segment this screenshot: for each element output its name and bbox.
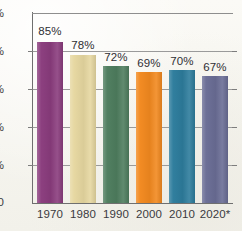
bar-value-2020: 67% <box>195 61 235 73</box>
tick-80 <box>28 51 33 52</box>
bar-chart: 100% 80% 60% 40% 20% 0 85% <box>0 0 242 231</box>
y-axis-label-80: 80% <box>0 45 4 57</box>
tick-60-right <box>232 89 237 90</box>
bar-1970 <box>37 42 63 204</box>
bar-2010 <box>169 70 195 203</box>
tick-40-right <box>232 127 237 128</box>
bar-2000 <box>136 72 162 203</box>
tick-20 <box>28 165 33 166</box>
y-axis-label-60: 60% <box>0 83 4 95</box>
y-axis-label-100: 100% <box>0 7 4 19</box>
bar-value-1980: 78% <box>63 39 103 51</box>
bar-value-1970: 85% <box>30 25 70 37</box>
bar-2020 <box>202 76 228 203</box>
tick-80-right <box>232 51 237 52</box>
y-axis-label-20: 20% <box>0 159 4 171</box>
y-axis-label-0: 0 <box>0 196 4 208</box>
tick-60 <box>28 89 33 90</box>
bar-1990 <box>103 66 129 203</box>
gridline-100 <box>32 13 233 14</box>
plot-area: 85% 78% 72% 69% 70% 67% <box>32 13 233 203</box>
tick-40 <box>28 127 33 128</box>
x-axis-label-2020: 2020* <box>193 208 237 220</box>
x-axis-line <box>32 203 233 204</box>
tick-20-right <box>232 165 237 166</box>
y-axis-label-40: 40% <box>0 121 4 133</box>
bar-1980 <box>70 55 96 203</box>
